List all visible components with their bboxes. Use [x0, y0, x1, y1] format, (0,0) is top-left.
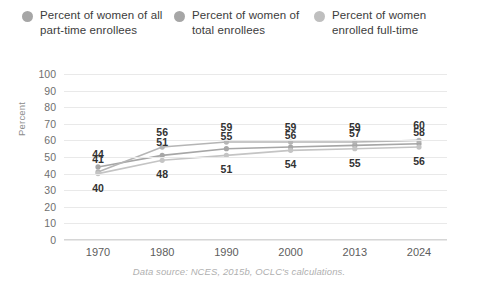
chart-container: Percent of women of all part-time enroll… — [0, 0, 478, 285]
y-gridline — [64, 174, 447, 175]
data-point-label: 59 — [221, 121, 233, 133]
y-axis-tick: 30 — [44, 184, 56, 196]
plot-area: 0102030405060708090100197019801990200020… — [64, 74, 447, 240]
legend-label-2: Percent of women enrolled full-time — [332, 8, 454, 38]
data-point-label: 48 — [156, 168, 168, 180]
data-point-label: 59 — [349, 121, 361, 133]
data-point — [352, 146, 357, 151]
y-axis-tick: 20 — [44, 201, 56, 213]
y-gridline — [64, 223, 447, 224]
data-point-label: 60 — [413, 119, 425, 131]
y-axis-tick: 40 — [44, 168, 56, 180]
data-point — [160, 158, 165, 163]
legend-dot-icon — [314, 11, 325, 22]
y-axis-tick: 10 — [44, 217, 56, 229]
data-point-label: 51 — [156, 136, 168, 148]
data-point-label: 59 — [285, 121, 297, 133]
x-axis-line — [64, 239, 447, 240]
data-point-label: 41 — [92, 153, 104, 165]
y-axis-label: Percent — [16, 102, 27, 136]
legend-item-0: Percent of women of all part-time enroll… — [22, 8, 174, 38]
y-gridline — [64, 140, 447, 141]
x-axis-tick: 2000 — [278, 246, 302, 258]
y-gridline — [64, 74, 447, 75]
data-point-label: 55 — [349, 157, 361, 169]
data-point — [416, 144, 421, 149]
y-axis-tick: 80 — [44, 101, 56, 113]
y-axis-tick: 50 — [44, 151, 56, 163]
legend-label-0: Percent of women of all part-time enroll… — [40, 8, 174, 38]
data-point — [224, 146, 229, 151]
legend-dot-icon — [22, 11, 33, 22]
data-point-label: 56 — [156, 126, 168, 138]
x-axis-tick: 2013 — [343, 246, 367, 258]
x-axis-tick: 1980 — [150, 246, 174, 258]
legend-label-1: Percent of women of total enrollees — [192, 8, 314, 38]
data-point — [95, 164, 100, 169]
chart-legend: Percent of women of all part-time enroll… — [22, 8, 462, 38]
y-axis-tick: 0 — [50, 234, 56, 246]
legend-item-2: Percent of women enrolled full-time — [314, 8, 454, 38]
data-point — [288, 148, 293, 153]
y-axis-tick: 60 — [44, 134, 56, 146]
data-point-label: 40 — [92, 182, 104, 194]
y-gridline — [64, 107, 447, 108]
y-gridline — [64, 124, 447, 125]
x-axis-tick: 2024 — [407, 246, 431, 258]
legend-item-1: Percent of women of total enrollees — [174, 8, 314, 38]
y-gridline — [64, 240, 447, 241]
chart-source-note: Data source: NCES, 2015b, OCLC's calcula… — [0, 266, 478, 277]
y-gridline — [64, 190, 447, 191]
data-point-label: 56 — [413, 155, 425, 167]
x-axis-tick: 1990 — [214, 246, 238, 258]
data-point-label: 54 — [285, 158, 297, 170]
y-axis-tick: 70 — [44, 118, 56, 130]
series-line — [98, 147, 419, 174]
y-gridline — [64, 207, 447, 208]
y-gridline — [64, 157, 447, 158]
data-point-label: 51 — [221, 163, 233, 175]
legend-dot-icon — [174, 11, 185, 22]
x-axis-tick: 1970 — [86, 246, 110, 258]
y-axis-tick: 90 — [44, 85, 56, 97]
y-gridline — [64, 91, 447, 92]
y-axis-tick: 100 — [38, 68, 56, 80]
